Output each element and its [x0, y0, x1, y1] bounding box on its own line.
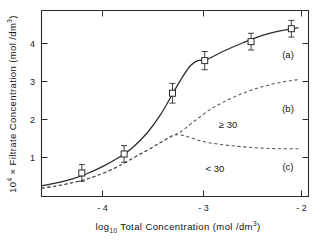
data-point	[169, 83, 175, 103]
x-tick-label-minus2: - 2	[296, 203, 307, 213]
curve-label-c: (c)	[282, 161, 293, 172]
x-tick-label-minus3: - 3	[198, 203, 209, 213]
x-axis-ticks-top	[103, 11, 302, 17]
x-axis-label-prefix: log	[95, 221, 109, 232]
y-axis-label-prefix: 10	[7, 182, 18, 193]
curve-c-line	[42, 135, 299, 188]
y-axis-label-mid: × Filtrate Concentration	[7, 66, 18, 178]
curve-label-b: (b)	[282, 103, 294, 114]
data-point-marker	[288, 26, 294, 32]
y-axis-ticks	[42, 44, 48, 158]
svg-text:104 × Filtrate Concentration: 104 × Filtrate Concentration (mol /dm3)	[6, 15, 18, 193]
y-axis-label-units-close: )	[7, 15, 18, 19]
data-point	[202, 52, 208, 70]
data-point-marker	[169, 90, 175, 96]
y-axis-label-units-open: (mol /dm	[7, 23, 18, 66]
x-axis-ticks	[103, 191, 302, 197]
annotation-ge-30: ≥ 30	[219, 119, 237, 130]
chart-svg: 4 3 2 1 - 4 - 3 - 2 (a) (b) (c) ≥ 30 < 3…	[0, 0, 323, 243]
y-axis-ticks-right	[303, 44, 309, 158]
x-axis-label-units-open: (mol /dm	[210, 221, 253, 232]
x-axis-label: log10 Total Concentration (mol /dm3)	[95, 220, 260, 234]
x-axis-label-mid: Total Concentration	[117, 221, 209, 232]
curve-label-a: (a)	[282, 49, 294, 60]
x-axis-label-subscript: 10	[109, 227, 117, 234]
y-tick-label-2: 2	[30, 115, 35, 125]
y-tick-label-4: 4	[30, 39, 35, 49]
y-tick-label-1: 1	[30, 153, 35, 163]
data-point	[288, 20, 294, 37]
x-axis-label-units-close: )	[257, 221, 261, 232]
chart-figure: 4 3 2 1 - 4 - 3 - 2 (a) (b) (c) ≥ 30 < 3…	[0, 0, 323, 243]
data-point-marker	[121, 151, 127, 157]
data-point-marker	[79, 170, 85, 176]
annotation-lt-30: < 30	[206, 163, 225, 174]
data-point	[121, 146, 127, 163]
curve-a-line	[42, 28, 299, 186]
data-point	[79, 165, 85, 182]
data-points-layer	[79, 20, 295, 181]
x-tick-label-minus4: - 4	[97, 203, 108, 213]
y-axis-label: 104 × Filtrate Concentration (mol /dm3)	[6, 15, 18, 193]
data-point-marker	[202, 58, 208, 64]
data-point-marker	[248, 39, 254, 45]
data-point	[248, 33, 254, 50]
y-tick-label-3: 3	[30, 77, 35, 87]
